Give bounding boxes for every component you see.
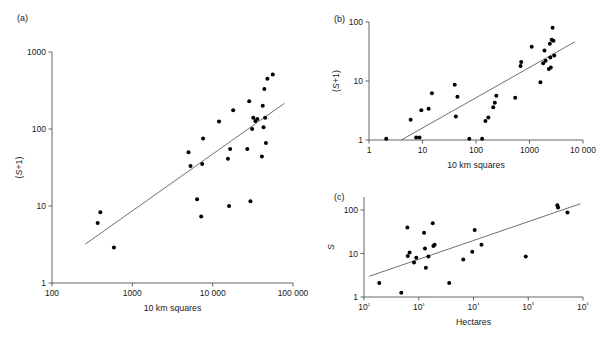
panel-b-data-point <box>530 45 534 49</box>
panel-b-data-point <box>480 137 484 141</box>
panel-c-data-point <box>524 254 528 258</box>
panel-c-ytick-label: 100 <box>344 205 358 215</box>
panel-a-data-point <box>98 210 102 214</box>
panel-a-xtick-label: 1000 <box>123 288 142 298</box>
panel-b-data-point <box>542 48 546 52</box>
panel-a-data-point <box>200 162 204 166</box>
panel-c-data-point <box>461 257 465 261</box>
panel-c-data-point <box>405 225 409 229</box>
panel-c-data-point <box>408 251 412 255</box>
panel-c-xaxis-title: Hectares <box>456 317 492 327</box>
panel-a-ytick-label: 1 <box>41 278 46 288</box>
panel-b-xaxis-title: 10 km squares <box>447 160 505 170</box>
panel-a-data-point <box>231 108 235 112</box>
panel-c-data-point <box>399 291 403 295</box>
panel-a-xtick-label: 10 000 <box>200 288 226 298</box>
panel-b-data-point <box>549 65 553 69</box>
panel-c-ytick-label: 1 <box>353 292 358 302</box>
panel-c-data-point <box>480 243 484 247</box>
panel-b-ytick-label: 100 <box>349 17 363 27</box>
panel-a-axis-lines <box>52 52 293 283</box>
panel-label-a: (a) <box>17 13 28 23</box>
panel-a-data-point <box>255 117 259 121</box>
panel-a-ytick-label: 1000 <box>27 47 46 57</box>
panel-c-axis-lines <box>364 197 583 297</box>
panel-a-data-point <box>248 199 252 203</box>
panel-c-fit-line <box>369 204 580 277</box>
panel-c-xtick-label: 10⁶ <box>577 302 589 312</box>
panel-b-data-point <box>453 83 457 87</box>
panel-b-data-point <box>548 42 552 46</box>
panel-b-data-point <box>551 26 555 30</box>
panel-b-data-point <box>491 105 495 109</box>
panel-b-ytick-label: 1 <box>358 135 363 145</box>
figure-container: 100100010 000100 000110100100010 km squa… <box>0 0 600 347</box>
panel-a-data-point <box>112 245 116 249</box>
panel-a-data-point <box>217 120 221 124</box>
panel-b-data-point <box>551 39 555 43</box>
panel-a-data-point <box>96 221 100 225</box>
panel-c-xtick-label: 10⁴ <box>468 302 480 312</box>
panel-c-xtick-label: 10² <box>358 302 369 312</box>
panel-b-data-point <box>427 107 431 111</box>
panel-b-data-point <box>493 101 497 105</box>
panel-a-data-point <box>271 73 275 77</box>
panel-b-xtick-label: 10 <box>418 145 428 155</box>
panel-label-b: (b) <box>334 14 345 24</box>
panel-b-data-point <box>418 136 422 140</box>
panel-c-data-point <box>431 221 435 225</box>
panel-c-data-point <box>473 228 477 232</box>
panel-a-data-point <box>201 137 205 141</box>
panel-a-data-point <box>195 197 199 201</box>
panel-a-data-point <box>189 164 193 168</box>
panel-a: 100100010 000100 000110100100010 km squa… <box>14 13 309 313</box>
panel-c: 10²10³10⁴10⁵10⁶110100HectaresS(c) <box>326 192 589 327</box>
panel-c-xtick-label: 10⁵ <box>522 302 534 312</box>
panel-b-xtick-label: 10 000 <box>570 145 596 155</box>
panel-a-data-point <box>261 104 265 108</box>
panel-a-data-point <box>199 215 203 219</box>
panel-c-data-point <box>447 281 451 285</box>
panel-a-data-point <box>226 157 230 161</box>
panel-b-data-point <box>430 91 434 95</box>
panel-b-data-point <box>519 64 523 68</box>
panel-c-data-point <box>423 247 427 251</box>
panel-b: 110100100010 00011010010 km squares(S+1)… <box>331 14 596 170</box>
panel-a-fit-line <box>85 103 284 244</box>
panel-a-xaxis-title: 10 km squares <box>144 303 202 313</box>
panel-b-data-point <box>467 137 471 141</box>
panel-b-ytick-label: 10 <box>354 76 364 86</box>
panel-a-data-point <box>265 77 269 81</box>
panel-c-data-point <box>412 261 416 265</box>
panel-b-xtick-label: 1 <box>367 145 372 155</box>
panel-a-data-point <box>260 154 264 158</box>
panel-c-data-point <box>556 205 560 209</box>
panel-b-yaxis-title: (S+1) <box>331 70 341 92</box>
panel-a-data-point <box>263 116 267 120</box>
panel-a-data-point <box>250 127 254 131</box>
panel-a-data-point <box>264 141 268 145</box>
panel-c-data-point <box>470 250 474 254</box>
panel-c-data-point <box>565 210 569 214</box>
panel-c-data-point <box>377 281 381 285</box>
panel-b-data-point <box>486 116 490 120</box>
panel-a-ytick-label: 10 <box>37 201 47 211</box>
panel-b-data-point <box>419 108 423 112</box>
panel-a-ytick-label: 100 <box>32 124 46 134</box>
panel-b-xtick-label: 100 <box>469 145 483 155</box>
panel-a-data-point <box>186 150 190 154</box>
panel-b-data-point <box>455 95 459 99</box>
panel-a-yaxis-title: (S+1) <box>14 157 24 179</box>
panel-a-data-point <box>228 147 232 151</box>
panel-a-data-point <box>247 99 251 103</box>
panel-b-data-point <box>384 137 388 141</box>
panel-b-data-point <box>513 96 517 100</box>
three-panel-scatter-figure: 100100010 000100 000110100100010 km squa… <box>0 0 600 347</box>
panel-c-ytick-label: 10 <box>349 249 359 259</box>
panel-c-data-point <box>424 266 428 270</box>
panel-a-data-point <box>262 87 266 91</box>
panel-a-data-point <box>227 204 231 208</box>
panel-b-data-point <box>494 94 498 98</box>
panel-b-data-point <box>519 60 523 64</box>
panel-c-data-point <box>426 254 430 258</box>
